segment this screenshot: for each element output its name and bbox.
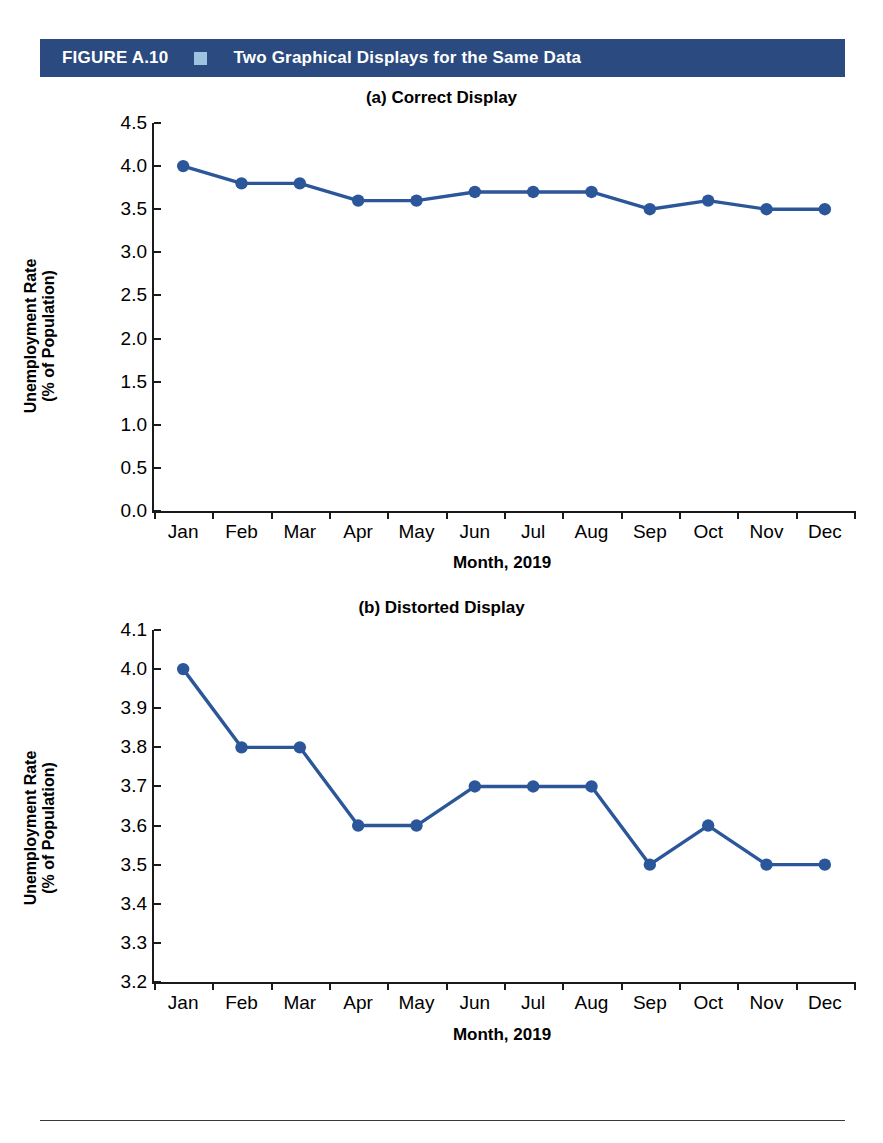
x-axis-tick-label-may: May [399,521,435,543]
figure-number: FIGURE A.10 [62,48,168,68]
data-point-marker [294,177,306,189]
y-axis-label-a: Unemployment Rate (% of Population) [22,136,58,536]
y-axis-tick-label: 0.0 [121,500,154,522]
y-axis-tick-label: 4.1 [121,619,154,641]
y-axis-tick-label: 3.5 [121,854,154,876]
y-axis-tick-label: 2.5 [121,284,154,306]
y-axis-tick-label: 3.9 [121,697,154,719]
x-axis-tick-label-mar: Mar [283,992,316,1014]
y-axis-tick-1: 3.2 [121,971,154,993]
x-axis-tick-mark [562,511,564,519]
square-bullet-icon [194,52,207,65]
data-series-0 [154,123,854,511]
data-point-marker [819,858,831,870]
y-axis-tick-label: 2.0 [121,328,154,350]
chart-panel-correct-display: (a) Correct Display Unemployment Rate (%… [0,88,883,593]
x-axis-tick-label-oct: Oct [693,521,723,543]
data-point-marker [702,819,714,831]
x-axis-label-a: Month, 2019 [152,553,852,573]
x-axis-tick-mark [212,511,214,519]
x-axis-tick-label-dec: Dec [808,521,842,543]
x-axis-tick-label-apr: Apr [343,992,373,1014]
data-point-marker [235,177,247,189]
y-axis-tick-1: 4.1 [121,619,154,641]
x-axis-tick-mark [504,982,506,990]
x-axis-tick-mark [854,511,856,519]
x-axis-tick-mark [854,982,856,990]
x-axis-tick-mark [562,982,564,990]
data-point-marker [760,858,772,870]
x-axis-tick-mark [621,511,623,519]
data-point-marker [760,203,772,215]
y-axis-tick-0: 2.0 [121,328,154,350]
x-axis-tick-label-jan: Jan [168,521,199,543]
data-point-marker [235,741,247,753]
x-axis-tick-label-dec: Dec [808,992,842,1014]
y-axis-tick-label: 4.0 [121,155,154,177]
series-line [183,166,825,209]
x-axis-tick-label-jun: Jun [460,521,491,543]
data-point-marker [352,819,364,831]
plot-area-a: 0.00.51.01.52.02.53.03.54.04.5JanFebMarA… [152,123,854,513]
x-axis-tick-mark [387,982,389,990]
x-axis-tick-mark [621,982,623,990]
y-axis-tick-0: 2.5 [121,284,154,306]
x-axis-tick-label-oct: Oct [693,992,723,1014]
data-point-marker [585,186,597,198]
data-point-marker [527,186,539,198]
y-axis-tick-label: 3.5 [121,198,154,220]
x-axis-tick-mark [737,982,739,990]
y-axis-tick-label: 1.0 [121,414,154,436]
x-axis-tick-label-jul: Jul [521,521,545,543]
x-axis-tick-mark [271,511,273,519]
data-point-marker [585,780,597,792]
figure-header: FIGURE A.10 Two Graphical Displays for t… [40,39,845,77]
x-axis-tick-mark [387,511,389,519]
x-axis-tick-label-sep: Sep [633,992,667,1014]
y-axis-tick-1: 3.5 [121,854,154,876]
x-axis-tick-label-sep: Sep [633,521,667,543]
y-axis-tick-0: 4.5 [121,112,154,134]
x-axis-tick-mark [271,982,273,990]
y-axis-tick-label: 1.5 [121,371,154,393]
panel-title-a: (a) Correct Display [0,88,883,108]
x-axis-tick-label-feb: Feb [225,992,258,1014]
data-point-marker [702,194,714,206]
y-axis-tick-label: 0.5 [121,457,154,479]
x-axis-tick-label-nov: Nov [750,521,784,543]
y-axis-tick-1: 4.0 [121,658,154,680]
y-axis-tick-label: 3.2 [121,971,154,993]
x-axis-tick-mark [154,511,156,519]
y-axis-tick-1: 3.7 [121,775,154,797]
y-axis-tick-label: 3.0 [121,241,154,263]
x-axis-tick-label-jul: Jul [521,992,545,1014]
x-axis-tick-mark [446,982,448,990]
y-axis-tick-label: 3.3 [121,932,154,954]
y-axis-tick-label: 3.6 [121,815,154,837]
data-point-marker [410,819,422,831]
x-axis-tick-label-jan: Jan [168,992,199,1014]
y-axis-tick-label: 3.8 [121,736,154,758]
data-point-marker [469,186,481,198]
y-axis-tick-0: 1.0 [121,414,154,436]
x-axis-tick-label-aug: Aug [575,521,609,543]
data-point-marker [527,780,539,792]
y-axis-tick-0: 4.0 [121,155,154,177]
y-axis-tick-label: 3.7 [121,775,154,797]
x-axis-tick-mark [212,982,214,990]
data-point-marker [294,741,306,753]
data-series-1 [154,630,854,982]
data-point-marker [177,663,189,675]
x-axis-tick-mark [679,511,681,519]
panel-title-b: (b) Distorted Display [0,598,883,618]
x-axis-tick-label-may: May [399,992,435,1014]
data-point-marker [352,194,364,206]
data-point-marker [177,160,189,172]
data-point-marker [469,780,481,792]
x-axis-tick-label-apr: Apr [343,521,373,543]
y-axis-tick-label: 3.4 [121,893,154,915]
data-point-marker [410,194,422,206]
y-axis-tick-0: 1.5 [121,371,154,393]
plot-area-b: 3.23.33.43.53.63.73.83.94.04.1JanFebMarA… [152,630,854,984]
x-axis-tick-mark [679,982,681,990]
